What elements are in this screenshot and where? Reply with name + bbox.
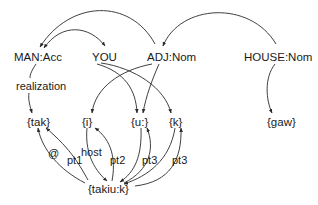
dependency-diagram: MAN:Acc YOU ADJ:Nom HOUSE:Nom realizatio… — [0, 0, 318, 205]
label-realization: realization — [16, 80, 66, 92]
edge-man-to-tak-lower — [29, 93, 32, 113]
label-pt1: pt1 — [67, 154, 82, 166]
node-you: YOU — [92, 51, 117, 63]
edge-house-to-adj — [163, 13, 276, 46]
edge-adj-to-i — [92, 64, 152, 113]
node-tak: {tak} — [27, 116, 50, 128]
node-k: {k} — [169, 116, 183, 128]
node-adj-nom: ADJ:Nom — [147, 51, 196, 63]
node-u: {u:} — [131, 116, 148, 128]
edge-man-to-you — [44, 30, 105, 48]
node-gaw: {gaw} — [267, 116, 296, 128]
label-pt3-b: pt3 — [172, 154, 187, 166]
node-i: {i} — [82, 116, 92, 128]
node-man-acc: MAN:Acc — [14, 51, 62, 63]
label-pt3-a: pt3 — [142, 154, 157, 166]
label-at: @ — [48, 147, 59, 159]
edge-house-to-gaw — [267, 64, 275, 113]
label-host: host — [81, 146, 102, 158]
node-house-nom: HOUSE:Nom — [244, 51, 312, 63]
label-pt2: pt2 — [110, 154, 125, 166]
node-takiuk: {takiu:k} — [88, 183, 129, 195]
edge-adj-to-man — [40, 11, 155, 47]
edge-man-to-tak-upper — [30, 64, 36, 78]
top-arcs — [40, 11, 276, 48]
